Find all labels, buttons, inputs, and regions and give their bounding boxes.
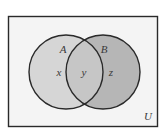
region-a-only-label: x xyxy=(56,66,62,78)
set-a-label: A xyxy=(59,43,67,55)
region-intersection-label: y xyxy=(81,66,87,78)
set-b-label: B xyxy=(101,43,108,55)
region-b-only-label: z xyxy=(108,66,114,78)
venn-diagram: A B x y z U xyxy=(0,0,167,136)
universe-label: U xyxy=(144,110,153,122)
